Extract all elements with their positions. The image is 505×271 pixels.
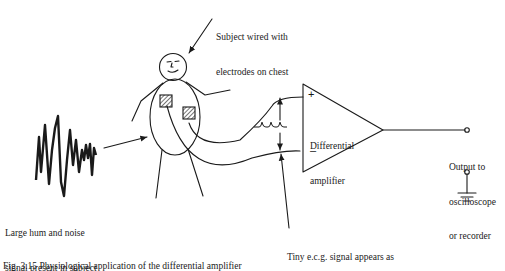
output-label-line-3: or recorder	[449, 231, 496, 243]
ecg-waveform-icon	[254, 122, 287, 127]
output-label: Output to oscilloscope or recorder	[449, 139, 496, 266]
ecg-pointer-arrow	[281, 154, 289, 228]
subject-label-line-2: electrodes on chest	[216, 67, 288, 79]
amplifier-label-line-2: amplifier	[310, 176, 354, 188]
subject-label-line-1: Subject wired with	[216, 32, 288, 44]
ecg-label: Tiny e.c.g. signal appears as potential …	[287, 229, 395, 271]
figure-caption: Fig. 3.15 Physiological application of t…	[3, 261, 242, 271]
output-label-line-2: oscilloscope	[449, 197, 496, 209]
output-label-line-1: Output to	[449, 162, 496, 174]
ecg-label-line-1: Tiny e.c.g. signal appears as	[287, 252, 395, 264]
noise-waveform-icon	[36, 116, 96, 196]
noise-label-line-1: Large hum and noise	[5, 228, 117, 240]
amplifier-plus-input: +	[308, 88, 314, 100]
noise-pointer-arrow	[104, 137, 147, 148]
subject-label: Subject wired with electrodes on chest	[216, 9, 288, 101]
diagram-canvas: + – Subject wired with electrodes on che…	[0, 0, 505, 271]
wire-minus	[189, 97, 303, 143]
amplifier-label-line-1: Differential	[310, 141, 354, 153]
electrode-upper-icon	[160, 95, 172, 107]
subject-pointer-arrow	[189, 19, 212, 53]
amplifier-label: Differential amplifier	[310, 118, 354, 210]
electrode-lower-icon	[183, 107, 195, 119]
